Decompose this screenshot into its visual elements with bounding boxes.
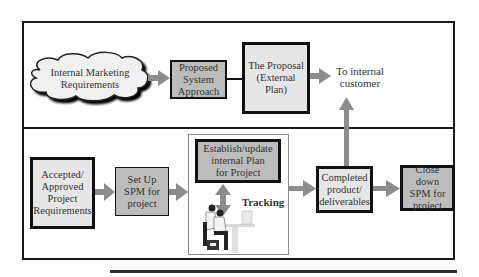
closedown-line2: SPM for — [403, 188, 452, 200]
closedown-line3: project — [403, 200, 452, 212]
completed-deliverables-box: Completed product/ deliverables — [316, 166, 373, 213]
completed-line2: product/ — [319, 184, 370, 196]
completed-line3: deliverables — [319, 196, 370, 208]
tracking-label: Tracking — [238, 196, 288, 208]
close-down-spm-box: Close down SPM for project — [400, 165, 455, 211]
closedown-line1: Close down — [403, 164, 452, 188]
people-at-computer-icon — [0, 0, 479, 277]
completed-line1: Completed — [319, 172, 370, 184]
